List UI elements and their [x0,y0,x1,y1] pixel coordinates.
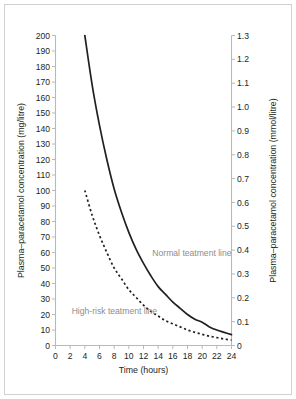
x-axis-title: Time (hours) [119,365,169,375]
y-axis-right-tick-label: 0.4 [237,245,249,255]
y-axis-right-tick-label: 0.1 [237,317,249,327]
x-axis-tick-label: 0 [53,351,58,361]
y-axis-right-tick-label: 0.3 [237,269,249,279]
y-axis-right-tick-label: 0 [237,341,242,351]
y-axis-left-tick-label: 80 [40,217,50,227]
x-axis-tick-label: 22 [212,351,222,361]
y-axis-left-tick-label: 90 [40,201,50,211]
y-axis-right-tick-label: 0.7 [237,174,249,184]
x-axis-tick-label: 4 [82,351,87,361]
y-axis-right-title: Plasma–paracetamol concentration (mmol/l… [268,98,278,282]
y-axis-right-tick-label: 1.2 [237,54,249,64]
y-axis-left-tick-label: 0 [45,341,50,351]
y-axis-left-tick-label: 10 [40,325,50,335]
y-axis-left-tick-label: 180 [36,62,51,72]
x-axis-tick-label: 20 [197,351,207,361]
y-axis-left-tick-label: 30 [40,294,50,304]
x-axis-tick-label: 10 [124,351,134,361]
y-axis-left-title: Plasma–paracetamol concentration (mg/lit… [16,103,26,278]
x-axis-tick-label: 12 [139,351,149,361]
y-axis-left-tick-label: 40 [40,279,50,289]
y-axis-left-tick-label: 130 [36,139,51,149]
chart-canvas: 0102030405060708090100110120130140150160… [0,0,296,399]
y-axis-left-tick-label: 200 [36,31,51,41]
y-axis-left-tick-label: 70 [40,232,50,242]
x-axis-tick-label: 24 [227,351,237,361]
y-axis-left-tick-label: 20 [40,310,50,320]
y-axis-right-tick-label: 0.5 [237,221,249,231]
x-axis-tick-label: 2 [68,351,73,361]
y-axis-left-tick-label: 120 [36,155,51,165]
y-axis-right-tick-label: 1.3 [237,31,249,41]
normal-treatment-label: Normal teatment line [152,248,232,258]
y-axis-left-tick-label: 100 [36,186,51,196]
x-axis-tick-label: 16 [168,351,178,361]
y-axis-right-tick-label: 0.2 [237,293,249,303]
paracetamol-nomogram-figure: 0102030405060708090100110120130140150160… [0,0,296,399]
y-axis-right-tick-label: 1.1 [237,78,249,88]
y-axis-right-tick-label: 1.0 [237,102,249,112]
y-axis-right-tick-label: 0.9 [237,126,249,136]
y-axis-right-tick-label: 0.8 [237,150,249,160]
y-axis-left-tick-label: 140 [36,124,51,134]
x-axis-tick-label: 8 [112,351,117,361]
y-axis-left-tick-label: 60 [40,248,50,258]
high-risk-treatment-curve [85,191,232,341]
x-axis-tick-label: 18 [183,351,193,361]
y-axis-left-tick-label: 170 [36,77,51,87]
y-axis-left-tick-label: 160 [36,93,51,103]
normal-treatment-curve [85,36,232,335]
x-axis-tick-label: 14 [153,351,163,361]
y-axis-left-tick-label: 150 [36,108,51,118]
y-axis-right-tick-label: 0.6 [237,198,249,208]
x-axis-tick-label: 6 [97,351,102,361]
y-axis-left-tick-label: 110 [36,170,50,180]
high-risk-treatment-label: High-risk teatment line [72,306,158,316]
y-axis-left-tick-label: 190 [36,46,51,56]
y-axis-left-tick-label: 50 [40,263,50,273]
